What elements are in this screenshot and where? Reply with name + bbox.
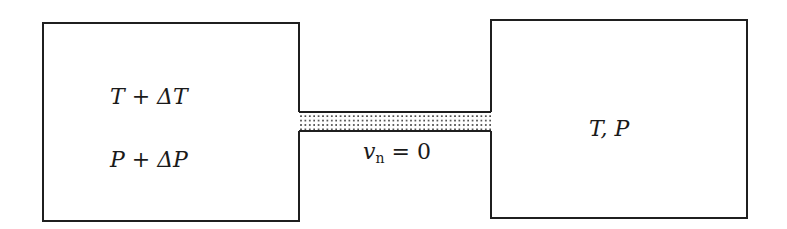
left-temperature-label: T + ΔT	[110, 84, 190, 109]
velocity-symbol: v	[363, 139, 376, 164]
left-reservoir-box	[43, 23, 299, 221]
left-pressure-label: P + ΔP	[109, 147, 189, 172]
velocity-subscript: n	[375, 150, 384, 166]
normal-velocity-label: vn = 0	[363, 139, 431, 166]
thermomechanical-diagram: T + ΔT P + ΔP vn = 0 T, P	[0, 0, 787, 229]
right-state-label: T, P	[589, 116, 630, 141]
velocity-equals-zero: = 0	[384, 139, 430, 164]
superleak-channel-fill	[299, 113, 491, 130]
